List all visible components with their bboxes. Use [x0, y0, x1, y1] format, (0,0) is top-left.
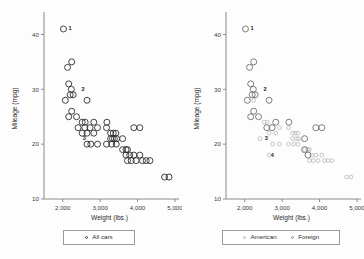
point-annotation-label: 2: [264, 86, 267, 92]
data-point: [291, 137, 295, 141]
point-annotation-label: 3: [83, 135, 86, 141]
data-point: [314, 153, 318, 157]
data-point: [308, 159, 312, 163]
plot-area-left: 102030402,0003,0004,0005,000Weight (lbs.…: [0, 0, 182, 259]
legend-entry-american[interactable]: American: [243, 234, 277, 240]
legend-label-foreign: Foreign: [298, 234, 319, 240]
data-point: [66, 114, 72, 120]
legend-marker-american-icon: [243, 236, 247, 240]
data-point: [137, 125, 143, 131]
data-point: [251, 108, 257, 114]
data-point: [251, 59, 257, 65]
data-point: [166, 174, 172, 180]
data-point: [326, 159, 330, 163]
data-point: [244, 97, 250, 103]
point-annotation-label: 1: [250, 25, 253, 31]
y-tick-label: 20: [32, 140, 39, 147]
x-axis-title: Weight (lbs.): [91, 214, 128, 222]
legend-marker-all-cars-icon: [85, 236, 88, 239]
y-tick-label: 10: [32, 195, 39, 202]
data-point: [323, 159, 327, 163]
data-point: [252, 98, 256, 102]
legend-entry-foreign[interactable]: Foreign: [291, 234, 320, 240]
data-point: [74, 114, 80, 120]
x-tick-label: 4,000: [312, 204, 328, 211]
data-point: [65, 64, 71, 70]
data-point: [311, 159, 315, 163]
data-point: [292, 142, 296, 146]
legend-entry-all-cars[interactable]: All cars: [85, 234, 112, 240]
data-point: [69, 108, 75, 114]
panel-by-origin: 102030402,0003,0004,0005,000Weight (lbs.…: [182, 0, 364, 259]
data-point: [273, 119, 279, 125]
data-point: [287, 142, 291, 146]
point-annotation-label: 4: [271, 152, 275, 158]
data-point: [60, 26, 66, 32]
data-point: [278, 126, 282, 130]
data-point: [287, 126, 291, 130]
x-tick-label: 2,000: [55, 204, 71, 211]
data-point: [69, 59, 75, 65]
y-axis-title: Mileage (mpg): [11, 87, 19, 129]
data-point: [75, 125, 81, 131]
data-point: [95, 141, 101, 147]
data-point: [345, 175, 349, 179]
data-point: [91, 119, 97, 125]
y-tick-label: 20: [214, 140, 221, 147]
data-point: [274, 131, 278, 135]
data-point: [286, 119, 292, 125]
data-point: [316, 159, 320, 163]
data-point: [248, 114, 254, 120]
y-tick-label: 30: [214, 86, 221, 93]
legend-label-american: American: [250, 234, 276, 240]
legend-marker-foreign-icon: [291, 236, 295, 240]
data-point: [271, 142, 275, 146]
data-point: [131, 125, 137, 131]
data-point: [242, 26, 248, 32]
data-point: [247, 64, 253, 70]
point-annotation-label: 2: [82, 86, 85, 92]
data-point: [266, 97, 272, 103]
x-tick-label: 5,000: [167, 204, 182, 211]
y-axis-title: Mileage (mpg): [193, 87, 201, 129]
data-point: [313, 125, 319, 131]
x-tick-label: 3,000: [92, 204, 108, 211]
x-axis-title: Weight (lbs.): [273, 214, 310, 222]
legend-label-all-cars: All cars: [92, 234, 112, 240]
y-tick-label: 40: [32, 31, 39, 38]
legend-left[interactable]: All cars: [63, 230, 135, 245]
point-annotation-label: 3: [265, 135, 268, 141]
data-point: [319, 125, 325, 131]
x-tick-label: 2,000: [237, 204, 253, 211]
data-point: [95, 125, 101, 131]
data-point: [330, 159, 334, 163]
plot-area-right: 102030402,0003,0004,0005,000Weight (lbs.…: [182, 0, 364, 259]
x-tick-label: 5,000: [349, 204, 364, 211]
data-point: [278, 142, 282, 146]
data-point: [349, 175, 353, 179]
data-point: [88, 141, 94, 147]
x-tick-label: 4,000: [130, 204, 146, 211]
data-point: [120, 136, 126, 142]
scatterplot-figure: 102030402,0003,0004,0005,000Weight (lbs.…: [0, 0, 364, 259]
legend-right[interactable]: American Foreign: [222, 230, 340, 245]
data-point: [91, 130, 97, 136]
x-tick-label: 3,000: [274, 204, 290, 211]
data-point: [320, 153, 324, 157]
y-tick-label: 40: [214, 31, 221, 38]
y-tick-label: 10: [214, 195, 221, 202]
data-point: [84, 97, 90, 103]
panel-all-cars: 102030402,0003,0004,0005,000Weight (lbs.…: [0, 0, 182, 259]
point-annotation-label: 1: [68, 25, 71, 31]
data-point: [147, 158, 153, 164]
data-point: [258, 137, 262, 141]
data-point: [296, 131, 300, 135]
y-tick-label: 30: [32, 86, 39, 93]
data-point: [256, 114, 262, 120]
data-point: [62, 97, 68, 103]
data-point: [296, 142, 300, 146]
data-point: [302, 136, 308, 142]
